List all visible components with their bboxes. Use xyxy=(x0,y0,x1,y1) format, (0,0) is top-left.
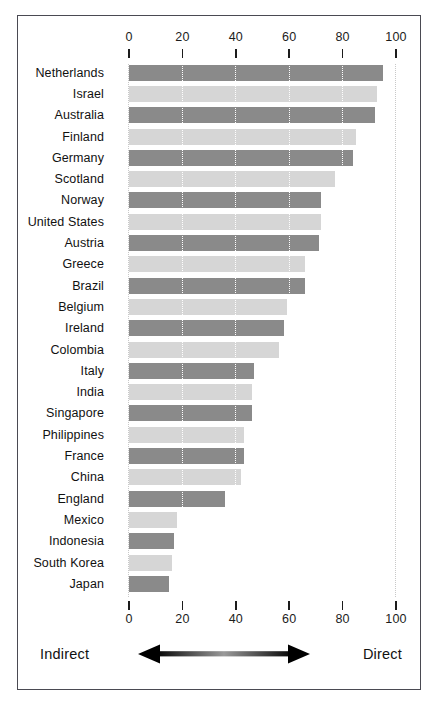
bar xyxy=(129,469,241,485)
category-label: England xyxy=(57,492,104,506)
x-tick-mark-bottom xyxy=(342,601,344,610)
category-label: Israel xyxy=(73,87,104,101)
bar-row: Scotland xyxy=(18,169,420,190)
x-tick-label-top: 60 xyxy=(269,30,309,44)
x-tick-label-bottom: 0 xyxy=(109,612,149,626)
bar-row: England xyxy=(18,488,420,509)
category-label: Japan xyxy=(69,577,104,591)
category-label: Norway xyxy=(61,193,104,207)
bar xyxy=(129,129,356,145)
bar-row: Japan xyxy=(18,573,420,594)
bar xyxy=(129,320,284,336)
bar xyxy=(129,192,321,208)
x-tick-label-top: 80 xyxy=(323,30,363,44)
bar xyxy=(129,405,252,421)
bar-row: Colombia xyxy=(18,339,420,360)
category-label: South Korea xyxy=(33,556,104,570)
bar-row: Italy xyxy=(18,360,420,381)
category-label: Colombia xyxy=(50,343,104,357)
category-label: Austria xyxy=(64,236,104,250)
category-label: Greece xyxy=(62,257,104,271)
category-label: China xyxy=(71,470,104,484)
bar-row: Singapore xyxy=(18,403,420,424)
x-tick-mark-bottom xyxy=(128,601,130,610)
bar-row: Indonesia xyxy=(18,531,420,552)
bar-row: India xyxy=(18,382,420,403)
category-label: Singapore xyxy=(46,406,104,420)
category-label: Italy xyxy=(81,364,104,378)
bar xyxy=(129,214,321,230)
bar-row: Ireland xyxy=(18,318,420,339)
bar xyxy=(129,448,244,464)
bar-chart-plot-area: 020406080100 NetherlandsIsraelAustraliaF… xyxy=(18,16,420,689)
x-tick-mark-bottom xyxy=(288,601,290,610)
bar xyxy=(129,256,305,272)
x-tick-label-top: 40 xyxy=(216,30,256,44)
category-label: Scotland xyxy=(55,172,104,186)
bar xyxy=(129,491,225,507)
x-tick-mark-top xyxy=(182,49,184,58)
x-tick-label-top: 0 xyxy=(109,30,149,44)
category-label: Netherlands xyxy=(35,66,104,80)
x-tick-label-bottom: 40 xyxy=(216,612,256,626)
bar xyxy=(129,533,174,549)
indirect-label: Indirect xyxy=(40,646,89,662)
x-tick-mark-bottom xyxy=(395,601,397,610)
bar xyxy=(129,512,177,528)
x-gridline xyxy=(128,64,129,597)
bar xyxy=(129,107,375,123)
category-label: Indonesia xyxy=(49,534,104,548)
category-label: Germany xyxy=(52,151,104,165)
bar xyxy=(129,278,305,294)
x-tick-label-top: 100 xyxy=(376,30,416,44)
x-tick-mark-top xyxy=(235,49,237,58)
bar-row: Belgium xyxy=(18,296,420,317)
x-gridline xyxy=(235,64,236,597)
bar xyxy=(129,65,383,81)
double-arrow-icon xyxy=(138,643,310,665)
x-gridline xyxy=(342,64,343,597)
bar-row: South Korea xyxy=(18,552,420,573)
x-tick-label-bottom: 80 xyxy=(323,612,363,626)
bar-row: Greece xyxy=(18,254,420,275)
bar xyxy=(129,576,169,592)
category-label: United States xyxy=(28,215,104,229)
bar xyxy=(129,555,172,571)
bar xyxy=(129,86,377,102)
bar-row: Germany xyxy=(18,147,420,168)
bar-row: Philippines xyxy=(18,424,420,445)
category-label: Australia xyxy=(54,108,104,122)
x-tick-label-top: 20 xyxy=(162,30,202,44)
bar xyxy=(129,171,335,187)
bar-row: Australia xyxy=(18,105,420,126)
x-tick-mark-top xyxy=(128,49,130,58)
x-tick-mark-top xyxy=(395,49,397,58)
bar-row: United States xyxy=(18,211,420,232)
x-tick-label-bottom: 20 xyxy=(162,612,202,626)
bar-row: Finland xyxy=(18,126,420,147)
bar-row: Mexico xyxy=(18,509,420,530)
bar xyxy=(129,384,252,400)
category-label: India xyxy=(76,385,104,399)
bar xyxy=(129,150,353,166)
category-label: Philippines xyxy=(42,428,104,442)
bar-row: Netherlands xyxy=(18,62,420,83)
category-label: Brazil xyxy=(72,279,104,293)
category-label: Belgium xyxy=(58,300,104,314)
x-tick-label-bottom: 100 xyxy=(376,612,416,626)
bar xyxy=(129,342,279,358)
x-tick-mark-bottom xyxy=(235,601,237,610)
x-tick-mark-top xyxy=(342,49,344,58)
x-gridline xyxy=(182,64,183,597)
x-gridline xyxy=(395,64,396,597)
x-tick-label-bottom: 60 xyxy=(269,612,309,626)
bar-row: France xyxy=(18,445,420,466)
bar-row: Norway xyxy=(18,190,420,211)
category-label: Mexico xyxy=(64,513,104,527)
bar-row: Israel xyxy=(18,83,420,104)
direct-label: Direct xyxy=(363,646,402,662)
x-tick-mark-top xyxy=(288,49,290,58)
bar-row: Austria xyxy=(18,232,420,253)
category-label: France xyxy=(64,449,104,463)
x-tick-mark-bottom xyxy=(182,601,184,610)
